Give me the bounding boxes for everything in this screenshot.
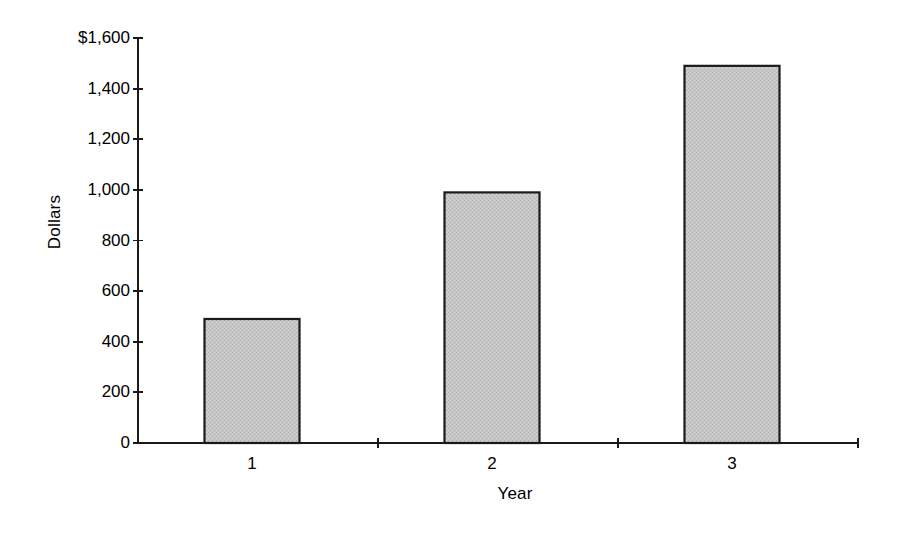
bar-3 xyxy=(685,66,780,443)
bar-1 xyxy=(205,319,300,443)
plot-area xyxy=(0,0,902,533)
bars-group xyxy=(205,66,780,443)
bar-chart: Dollars 02004006008001,0001,2001,400$1,6… xyxy=(0,0,902,533)
bar-2 xyxy=(445,192,540,443)
